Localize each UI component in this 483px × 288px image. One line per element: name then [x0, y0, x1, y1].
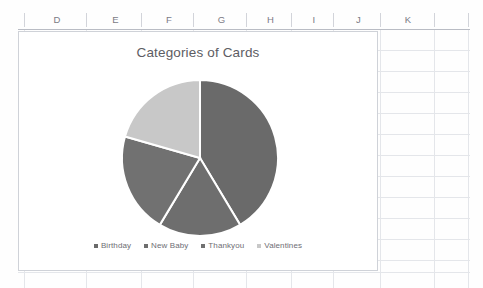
column-divider-8[interactable] — [434, 13, 435, 27]
legend-swatch-icon — [144, 244, 148, 248]
legend-label: Thankyou — [208, 241, 244, 250]
column-header-f[interactable]: F — [143, 10, 195, 29]
column-header-j[interactable]: J — [335, 10, 382, 29]
grid-vline-7 — [380, 30, 381, 288]
chart-legend[interactable]: BirthdayNew BabyThankyouValentines — [19, 241, 377, 250]
legend-item-birthday[interactable]: Birthday — [94, 241, 131, 250]
legend-label: Birthday — [101, 241, 131, 250]
chart-object[interactable]: Categories of Cards BirthdayNew BabyThan… — [18, 31, 378, 271]
pie-chart[interactable] — [85, 80, 315, 240]
column-header-k[interactable]: K — [382, 10, 434, 29]
legend-swatch-icon — [201, 244, 205, 248]
legend-label: Valentines — [264, 241, 302, 250]
grid-vline-8 — [434, 30, 435, 288]
column-divider-7[interactable] — [380, 13, 381, 27]
chart-title: Categories of Cards — [19, 45, 377, 60]
legend-item-new-baby[interactable]: New Baby — [144, 241, 188, 250]
column-header-row[interactable]: DEFGHIJK — [0, 10, 483, 29]
column-header-d[interactable]: D — [26, 10, 88, 29]
legend-label: New Baby — [151, 241, 188, 250]
column-header-g[interactable]: G — [195, 10, 248, 29]
grid-hline-11 — [18, 272, 470, 273]
legend-swatch-icon — [257, 244, 261, 248]
column-divider-0[interactable] — [24, 13, 25, 27]
column-divider-4[interactable] — [246, 13, 247, 27]
legend-swatch-icon — [94, 244, 98, 248]
column-header-e[interactable]: E — [88, 10, 143, 29]
pie-plot-area[interactable] — [19, 66, 379, 238]
legend-item-valentines[interactable]: Valentines — [257, 241, 302, 250]
column-divider-6[interactable] — [333, 13, 334, 27]
spreadsheet-chart-screenshot: DEFGHIJK Categories of Cards BirthdayNew… — [0, 0, 483, 288]
column-header-h[interactable]: H — [248, 10, 293, 29]
grid-vline-9 — [468, 30, 469, 288]
legend-item-thankyou[interactable]: Thankyou — [201, 241, 244, 250]
column-divider-1[interactable] — [86, 13, 87, 27]
column-divider-5[interactable] — [291, 13, 292, 27]
column-divider-9[interactable] — [468, 13, 469, 27]
column-divider-3[interactable] — [193, 13, 194, 27]
column-header-i[interactable]: I — [293, 10, 335, 29]
column-divider-2[interactable] — [141, 13, 142, 27]
